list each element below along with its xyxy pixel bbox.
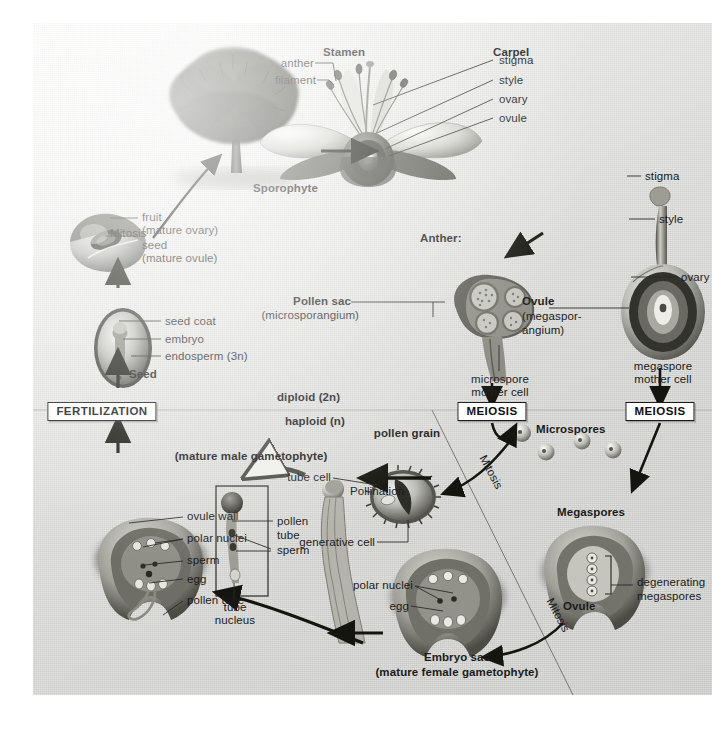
label-diploid: diploid (2n) (277, 391, 340, 404)
label-seed-title: Seed (129, 368, 157, 381)
label-tube-nucleus-2: nucleus (215, 614, 255, 627)
label-megaspore-mother-cell-1: megaspore (634, 360, 692, 373)
label-pollen-tube-1: pollen (277, 515, 308, 528)
label-degenerating-2: megaspores (637, 590, 701, 603)
label-polar-nuclei-left: polar nuclei (187, 532, 247, 545)
label-anther-title: Anther: (420, 232, 462, 245)
meiosis-box-right[interactable]: MEIOSIS (625, 402, 694, 421)
life-cycle-figure: diploid (2n) haploid (n) FERTILIZATION M… (0, 0, 712, 735)
label-embryo: embryo (165, 333, 204, 346)
label-megaspores: Megaspores (557, 506, 625, 519)
label-ovule-wall: ovule wall (187, 510, 239, 523)
label-mitosis-tree: Mitosis (110, 227, 146, 240)
label-microspore-mother-cell-2: mother cell (471, 386, 528, 399)
label-seed-sub: (mature ovule) (142, 252, 218, 265)
label-seed: seed (142, 239, 167, 252)
label-microspore-mother-cell-1: microspore (471, 373, 529, 386)
label-fruit-sub: (mature ovary) (142, 224, 218, 237)
label-anther: anther (281, 57, 314, 70)
label-layer: diploid (2n) haploid (n) FERTILIZATION M… (33, 23, 712, 695)
label-pistil-stigma: stigma (645, 170, 679, 183)
label-mature-male-gametophyte: (mature male gametophyte) (175, 450, 328, 463)
label-sperm-left: sperm (187, 554, 219, 567)
label-filament: filament (275, 74, 316, 87)
label-endosperm: endosperm (3n) (165, 350, 248, 363)
label-pollen-tube-left: pollen tube (187, 594, 244, 607)
label-polar-nuclei-center: polar nuclei (353, 579, 413, 592)
label-fruit: fruit (142, 211, 162, 224)
label-ovule-mega: Ovule (522, 295, 554, 308)
label-embryo-sac: Embryo sac (424, 651, 490, 664)
label-tube-cell: tube cell (287, 471, 331, 484)
label-ovule-bottom: Ovule (563, 600, 595, 613)
label-ovule-sub-1: (megaspor- (522, 310, 582, 323)
label-flower-ovary: ovary (499, 93, 528, 106)
label-pollen-grain: pollen grain (374, 427, 440, 440)
label-flower-style: style (499, 74, 523, 87)
diagram-panel: diploid (2n) haploid (n) FERTILIZATION M… (33, 23, 712, 695)
label-pollination: Pollination (350, 485, 404, 498)
label-stamen: Stamen (323, 46, 365, 59)
label-degenerating-1: degenerating (637, 576, 705, 589)
label-egg-left: egg (187, 573, 207, 586)
label-microspores: Microspores (536, 423, 605, 436)
label-ovule-sub-2: angium) (522, 324, 564, 337)
label-pollen-sac-sub: (microsporangium) (261, 309, 359, 322)
label-flower-ovule: ovule (499, 112, 527, 125)
label-sperm-male: sperm (277, 544, 309, 557)
label-pistil-style: style (659, 213, 683, 226)
label-pistil-ovary: ovary (681, 271, 710, 284)
label-embryo-sac-sub: (mature female gametophyte) (375, 666, 538, 679)
label-sporophyte: Sporophyte (253, 182, 318, 195)
label-mitosis-microspore: Mitosis (477, 453, 506, 491)
label-seed-coat: seed coat (165, 315, 216, 328)
label-haploid: haploid (n) (285, 415, 345, 428)
label-generative-cell: generative cell (299, 536, 375, 549)
fertilization-box[interactable]: FERTILIZATION (47, 402, 156, 421)
label-megaspore-mother-cell-2: mother cell (634, 373, 691, 386)
label-pollen-sac: Pollen sac (293, 295, 351, 308)
label-egg-center: egg (390, 600, 410, 613)
label-pollen-tube-2: tube (277, 529, 300, 542)
label-flower-stigma: stigma (499, 54, 533, 67)
meiosis-box-left[interactable]: MEIOSIS (457, 402, 526, 421)
